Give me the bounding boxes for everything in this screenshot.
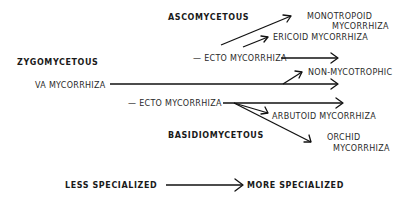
node-va-mycorrhiza: VA MYCORRHIZA — [35, 81, 106, 90]
axis-less-specialized: LESS SPECIALIZED — [65, 181, 157, 190]
group-basidiomycetous: BASIDIOMYCETOUS — [168, 131, 264, 140]
group-ascomycetous: ASCOMYCETOUS — [168, 13, 249, 22]
node-monotropoid-line2: MYCORRHIZA — [332, 22, 389, 31]
node-ericoid-mycorrhiza: ERICOID MYCORRHIZA — [273, 33, 368, 42]
node-orchid-line1: ORCHID — [327, 133, 360, 142]
axis-more-specialized: MORE SPECIALIZED — [247, 181, 344, 190]
node-asco-ecto-mycorrhiza: — ECTO MYCORRHIZA — [193, 54, 287, 63]
node-orchid-line2: MYCORRHIZA — [333, 144, 390, 153]
node-arbutoid-mycorrhiza: ARBUTOID MYCORRHIZA — [272, 112, 376, 121]
group-zygomycetous: ZYGOMYCETOUS — [17, 58, 98, 67]
node-non-mycotrophic: NON-MYCOTROPHIC — [308, 68, 393, 77]
node-basidio-ecto-mycorrhiza: — ECTO MYCORRHIZA — [128, 99, 222, 108]
node-monotropoid-line1: MONOTROPOID — [307, 12, 372, 21]
arrowhead-icon — [261, 107, 268, 114]
mycorrhiza-evolution-diagram: ASCOMYCETOUS ZYGOMYCETOUS BASIDIOMYCETOU… — [0, 0, 407, 203]
